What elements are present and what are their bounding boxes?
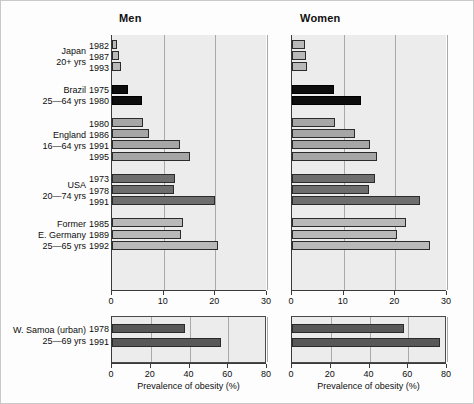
plot-area-men-main xyxy=(111,35,266,290)
bar-england-1995-men xyxy=(112,152,190,161)
tick-label-men-bottom-20: 20 xyxy=(145,369,155,379)
bar-east-germany-1992-women xyxy=(292,241,430,250)
year-label-east-germany-1992: 1992 xyxy=(89,241,109,251)
tick-label-women-main-30: 30 xyxy=(441,296,451,306)
tick-label-women-main-20: 20 xyxy=(389,296,399,306)
gridline xyxy=(267,35,268,290)
tick-men-bottom-80 xyxy=(266,364,267,368)
group-label-japan-line0: Japan xyxy=(61,46,86,56)
obesity-prevalence-figure: Men Women 198219871993197519801980198619… xyxy=(0,0,474,404)
tick-label-men-main-20: 20 xyxy=(209,296,219,306)
bar-usa-1978-women xyxy=(292,185,369,194)
tick-men-bottom-0 xyxy=(111,364,112,368)
gridline xyxy=(164,35,165,290)
bar-england-1986-women xyxy=(292,129,355,138)
group-label-usa-line1: 20—74 yrs xyxy=(42,191,86,201)
tick-women-bottom-0 xyxy=(291,364,292,368)
bar-england-1980-women xyxy=(292,118,335,127)
group-label-east-germany-line2: 25—65 yrs xyxy=(42,241,86,251)
tick-label-women-bottom-40: 40 xyxy=(363,369,373,379)
group-label-japan-line1: 20+ yrs xyxy=(56,57,86,67)
gridline xyxy=(447,317,448,362)
bar-japan-1987-men xyxy=(112,51,119,60)
tick-women-main-0 xyxy=(291,291,292,295)
year-label-w-samoa-1978: 1978 xyxy=(89,324,109,334)
group-label-usa-line0: USA xyxy=(67,180,86,190)
bar-england-1991-men xyxy=(112,140,180,149)
group-label-east-germany-line1: E. Germany xyxy=(38,230,86,240)
group-label-w-samoa-line1: 25—69 yrs xyxy=(42,336,86,346)
bar-usa-1973-men xyxy=(112,174,175,183)
year-label-east-germany-1985: 1985 xyxy=(89,219,109,229)
year-label-japan-1993: 1993 xyxy=(89,63,109,73)
bar-east-germany-1992-men xyxy=(112,241,218,250)
bar-england-1991-women xyxy=(292,140,370,149)
bar-england-1995-women xyxy=(292,152,377,161)
tick-label-women-bottom-0: 0 xyxy=(288,369,293,379)
bar-east-germany-1989-women xyxy=(292,230,397,239)
bar-brazil-1975-men xyxy=(112,85,128,94)
tick-women-bottom-40 xyxy=(369,364,370,368)
tick-label-men-bottom-80: 80 xyxy=(261,369,271,379)
year-label-england-1991: 1991 xyxy=(89,141,109,151)
bar-east-germany-1989-men xyxy=(112,230,181,239)
bar-brazil-1980-men xyxy=(112,96,142,105)
plot-area-women-main xyxy=(291,35,446,290)
bar-w-samoa-1991-men xyxy=(112,338,221,347)
year-label-england-1995: 1995 xyxy=(89,152,109,162)
tick-label-men-main-0: 0 xyxy=(108,296,113,306)
tick-men-main-20 xyxy=(214,291,215,295)
year-label-brazil-1980: 1980 xyxy=(89,96,109,106)
tick-label-women-main-10: 10 xyxy=(338,296,348,306)
tick-men-bottom-60 xyxy=(227,364,228,368)
bar-w-samoa-1991-women xyxy=(292,338,440,347)
year-label-usa-1973: 1973 xyxy=(89,174,109,184)
year-label-japan-1982: 1982 xyxy=(89,41,109,51)
gridline xyxy=(344,35,345,290)
tick-label-women-bottom-20: 20 xyxy=(325,369,335,379)
tick-women-bottom-60 xyxy=(407,364,408,368)
gridline xyxy=(447,35,448,290)
bar-japan-1982-women xyxy=(292,40,305,49)
year-label-w-samoa-1991: 1991 xyxy=(89,337,109,347)
tick-label-men-bottom-60: 60 xyxy=(222,369,232,379)
bar-w-samoa-1978-women xyxy=(292,324,404,333)
tick-men-bottom-20 xyxy=(150,364,151,368)
year-label-england-1986: 1986 xyxy=(89,130,109,140)
bar-japan-1987-women xyxy=(292,51,306,60)
tick-men-main-0 xyxy=(111,291,112,295)
bar-usa-1991-men xyxy=(112,196,215,205)
bar-usa-1973-women xyxy=(292,174,375,183)
panel-title-men: Men xyxy=(119,12,142,24)
bar-usa-1991-women xyxy=(292,196,420,205)
tick-label-women-bottom-60: 60 xyxy=(402,369,412,379)
year-label-usa-1991: 1991 xyxy=(89,197,109,207)
axis-title-women-bottom: Prevalence of obesity (%) xyxy=(317,381,420,391)
group-label-england-line0: England xyxy=(53,130,86,140)
plot-area-women-bottom xyxy=(291,316,446,363)
tick-label-men-bottom-0: 0 xyxy=(108,369,113,379)
group-label-w-samoa-line0: W. Samoa (urban) xyxy=(13,325,86,335)
year-label-england-1980: 1980 xyxy=(89,119,109,129)
tick-men-main-30 xyxy=(266,291,267,295)
tick-women-bottom-80 xyxy=(446,364,447,368)
tick-label-men-bottom-40: 40 xyxy=(183,369,193,379)
tick-label-women-main-0: 0 xyxy=(288,296,293,306)
year-label-brazil-1975: 1975 xyxy=(89,85,109,95)
tick-women-main-30 xyxy=(446,291,447,295)
year-label-east-germany-1989: 1989 xyxy=(89,230,109,240)
bar-usa-1978-men xyxy=(112,185,174,194)
axis-title-men-bottom: Prevalence of obesity (%) xyxy=(137,381,240,391)
bar-brazil-1980-women xyxy=(292,96,361,105)
tick-women-main-10 xyxy=(343,291,344,295)
panel-title-women: Women xyxy=(300,12,341,24)
gridline xyxy=(267,317,268,362)
bar-japan-1993-women xyxy=(292,62,307,71)
bar-japan-1993-men xyxy=(112,62,121,71)
plot-area-men-bottom xyxy=(111,316,266,363)
axis-line-women-main xyxy=(291,290,446,291)
bar-england-1980-men xyxy=(112,118,143,127)
bar-england-1986-men xyxy=(112,129,149,138)
tick-women-bottom-20 xyxy=(330,364,331,368)
tick-women-main-20 xyxy=(394,291,395,295)
